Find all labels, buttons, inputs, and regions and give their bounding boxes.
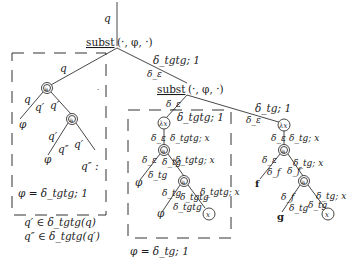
mid-edge-l1-tgtg-x: δ_tgtg; x xyxy=(170,133,210,144)
mid-edge-n1-tg-inner: δ_tg xyxy=(148,170,168,181)
mid-edge-n2-tgtg-x: δ_tgtg; x xyxy=(200,187,240,198)
var-node-right-label: x xyxy=(325,211,329,219)
node-a-left-1-label: a xyxy=(45,85,49,92)
leaf-phi-left-2: φ xyxy=(44,153,52,165)
right-edge-n2-tg-inner: δ_tg xyxy=(289,203,309,214)
edge-label-tgtg-1: δ_tgtg; 1 xyxy=(153,54,200,67)
right-edge-n2-f: δ_f xyxy=(281,192,296,203)
edge-label-eps: δ_ε xyxy=(147,69,162,80)
left2-edge-q-prime-right: q′ xyxy=(74,138,84,150)
mid-edge-in-tgtg: δ_tgtg; 1 xyxy=(177,111,224,124)
left-edge-q-prime-inner: q′ xyxy=(35,101,45,113)
node-a-right-1-label: a xyxy=(282,147,286,154)
edge-label-eps-right: δ_ε xyxy=(246,115,261,126)
node-a-right-2-label: a xyxy=(302,178,306,185)
right-edge-n1-eps: δ_ε xyxy=(262,155,277,166)
legend-line-1: q′ ∈ δ_tgtg(q) xyxy=(24,216,96,229)
left2-edge-q-dblprime: q″ xyxy=(58,143,69,155)
leaf-q-dblprime: q″ : xyxy=(81,160,99,172)
var-node-mid-label: x xyxy=(206,211,210,219)
subst-op-second-args: (·, φ, ·) xyxy=(188,83,224,95)
subst-op-root-args: (·, φ, ·) xyxy=(117,36,153,48)
mid-edge-n2-tg: δ_tg xyxy=(162,188,182,199)
lambda-node-right-label: λx xyxy=(278,122,287,130)
left2-edge-q-prime: q′ xyxy=(48,130,58,142)
mid-edge-l1-eps: δ_ε xyxy=(151,133,166,144)
node-a-left-2-label: a xyxy=(70,116,74,123)
right-edge-n1-f-right: δ_f xyxy=(287,166,302,177)
left-edge-in-label: q xyxy=(60,62,67,74)
stray-dot: · xyxy=(97,86,99,94)
right-edge-l-eps: δ_ε xyxy=(271,133,286,144)
middle-dashed-box xyxy=(128,110,231,238)
middle-box-caption: φ = δ_tg; 1 xyxy=(130,245,189,258)
right-edge-n1-f-inner: δ_f xyxy=(267,167,282,178)
subst-op-root: subst xyxy=(86,36,115,48)
edge-label-tg-1: δ_tg; 1 xyxy=(255,102,291,115)
mid-edge-in-eps: δ_ε xyxy=(166,99,181,110)
node-a-mid-2-label: a xyxy=(182,178,186,185)
root-state-label: q xyxy=(104,12,111,24)
mid-edge-n1-eps: δ_ε xyxy=(142,155,157,166)
leaf-g: g xyxy=(277,211,284,222)
tree-diagram: q subst (·, φ, ·) δ_tgtg; 1 δ_ε q a q q′… xyxy=(0,0,347,262)
mid-edge-n2-tgtg-inner: δ_tgtg xyxy=(173,202,202,213)
left-box-caption: φ = δ_tgtg; 1 xyxy=(18,187,88,200)
right-edge-l-tg-x: δ_tg; x xyxy=(289,133,319,144)
left-edge-q: q xyxy=(24,93,31,105)
leaf-phi-mid-2: φ xyxy=(157,207,165,219)
subst-op-second: subst xyxy=(157,83,186,95)
left-edge-q-prime-right: q′ xyxy=(50,99,60,111)
leaf-f: f xyxy=(255,178,260,189)
leaf-phi-left-1: φ xyxy=(19,118,27,130)
lambda-node-mid-label: λx xyxy=(158,120,167,128)
legend-line-2: q″ ∈ δ_tgtg(q′) xyxy=(24,230,100,243)
mid-edge-n1-tgtg-x: δ_tgtg; x xyxy=(175,155,215,166)
node-a-mid-1-label: a xyxy=(162,147,166,154)
leaf-phi-mid-1: φ xyxy=(135,176,143,188)
